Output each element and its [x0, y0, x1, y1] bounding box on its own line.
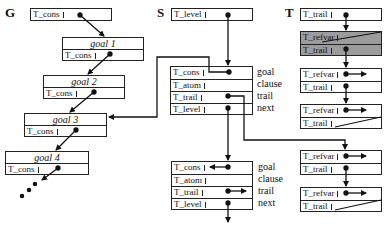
t-chain-pointers	[322, 13, 381, 210]
g-chain-pointers	[20, 13, 112, 198]
pointer-wires	[0, 0, 390, 227]
s-chain-pointers	[109, 13, 345, 222]
